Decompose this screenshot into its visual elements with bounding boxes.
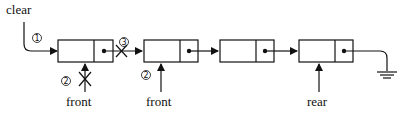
clear-arrow [24, 22, 57, 51]
svg-text:3: 3 [121, 38, 126, 47]
svg-text:2: 2 [63, 77, 68, 86]
step-marker-1: 1 [33, 34, 42, 44]
svg-text:2: 2 [143, 71, 148, 80]
step-marker-2-old: 2 [62, 77, 71, 87]
new-front-label: front [146, 94, 172, 109]
ground-null-icon [377, 72, 397, 78]
old-front-label: front [66, 94, 92, 109]
svg-text:1: 1 [34, 34, 39, 43]
clear-label: clear [6, 2, 32, 17]
step-marker-2-new: 2 [142, 71, 151, 81]
linked-queue-diagram: clear 1 3 2 front 2 front [0, 0, 415, 121]
step-marker-3: 3 [120, 38, 129, 48]
rear-label: rear [307, 94, 328, 109]
